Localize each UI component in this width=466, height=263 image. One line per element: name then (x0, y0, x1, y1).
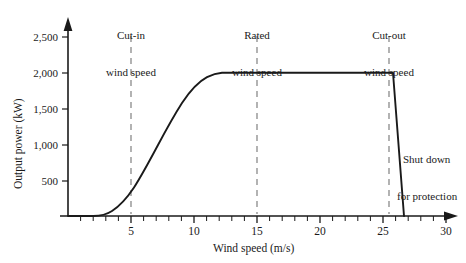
y-axis-title: Output power (kW) (12, 98, 25, 189)
annotation-shut-down: Shut down for protection (397, 128, 466, 227)
x-tick-label-30: 30 (432, 225, 460, 238)
marker-label-rated-line1: Rated (216, 29, 298, 41)
y-tick-label-2000: 2,000 (14, 67, 58, 79)
marker-label-cut-out: Cut-out wind speed (348, 4, 430, 103)
marker-label-rated: Rated wind speed (216, 4, 298, 103)
x-tick-label-25: 25 (369, 225, 397, 238)
x-tick-label-15: 15 (243, 225, 271, 238)
marker-label-cut-out-line2: wind speed (348, 66, 430, 78)
annotation-shut-down-line1: Shut down (397, 153, 466, 165)
annotation-shut-down-line2: for protection (397, 190, 466, 202)
x-tick-label-10: 10 (180, 225, 208, 238)
wind-turbine-power-curve-chart: 2,500 2,000 1,500 1,000 500 5 10 15 20 2… (0, 0, 466, 263)
x-tick-label-20: 20 (306, 225, 334, 238)
y-axis (62, 17, 72, 216)
marker-label-cut-out-line1: Cut-out (348, 29, 430, 41)
marker-label-cut-in-line1: Cut-in (90, 29, 172, 41)
y-tick-label-2500: 2,500 (14, 31, 58, 43)
marker-label-rated-line2: wind speed (216, 66, 298, 78)
marker-label-cut-in-line2: wind speed (90, 66, 172, 78)
x-tick-label-5: 5 (117, 225, 145, 238)
x-axis-title: Wind speed (m/s) (213, 242, 294, 255)
marker-label-cut-in: Cut-in wind speed (90, 4, 172, 103)
